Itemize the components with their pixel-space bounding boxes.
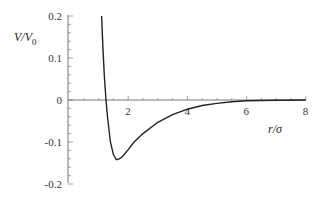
- axes: [68, 15, 306, 183]
- x-tick-label: 4: [184, 105, 190, 117]
- potential-curve: [102, 16, 306, 160]
- y-tick-label: 0.2: [48, 10, 62, 22]
- x-tick-label: 8: [303, 105, 309, 117]
- y-tick-label: 0: [57, 94, 63, 106]
- y-tick-label: -0.2: [45, 178, 62, 190]
- x-tick-label: 2: [125, 105, 131, 117]
- y-tick-label: -0.1: [45, 136, 62, 148]
- x-tick-label: 6: [244, 105, 250, 117]
- y-tick-label: 0.1: [48, 52, 62, 64]
- chart: 24680.20.10-0.1-0.2 V/V0 r/σ: [0, 0, 318, 199]
- y-axis-label: V/V0: [14, 30, 37, 47]
- x-axis-label: r/σ: [268, 122, 283, 136]
